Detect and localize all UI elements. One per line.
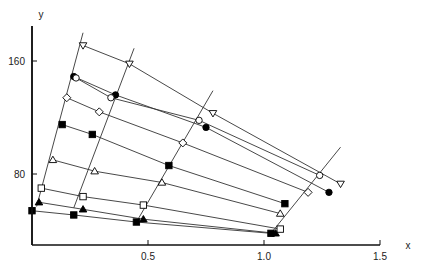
circle-marker-icon [203, 124, 209, 130]
square-marker-icon [71, 212, 77, 218]
diamond-marker-icon [179, 139, 187, 147]
x-tick-label: 0.5 [141, 251, 155, 262]
y-tick-label: 160 [8, 56, 25, 67]
circle-marker-icon [196, 117, 202, 123]
square-marker-icon [38, 185, 44, 191]
diamond-marker-icon [63, 94, 71, 102]
y-axis-label: y [39, 9, 44, 20]
square-marker-icon [268, 230, 274, 236]
series-line [32, 211, 271, 234]
square-marker-icon [277, 226, 283, 232]
circle-marker-icon [316, 172, 322, 178]
iso-line [37, 33, 83, 207]
circle-marker-icon [326, 189, 332, 195]
circle-marker-icon [108, 95, 114, 101]
y-tick-label: 80 [14, 169, 26, 180]
square-marker-icon [80, 193, 86, 199]
down-triangle-marker-icon [79, 43, 87, 49]
x-axis-label: x [406, 240, 411, 251]
chart: 0.51.01.580160xy [0, 0, 423, 264]
plot-area: 0.51.01.580160xy [0, 0, 423, 264]
square-marker-icon [89, 131, 95, 137]
square-marker-icon [133, 219, 139, 225]
diamond-marker-icon [304, 188, 312, 196]
down-triangle-marker-icon [209, 111, 217, 117]
iso-line [136, 91, 213, 222]
up-triangle-marker-icon [35, 199, 43, 205]
square-marker-icon [282, 200, 288, 206]
circle-marker-icon [73, 75, 79, 81]
square-marker-icon [140, 202, 146, 208]
x-tick-label: 1.0 [257, 251, 271, 262]
square-marker-icon [166, 162, 172, 168]
down-triangle-marker-icon [337, 181, 345, 187]
square-marker-icon [59, 121, 65, 127]
diamond-marker-icon [95, 108, 103, 116]
series-line [76, 78, 320, 175]
iso-line [74, 48, 134, 208]
x-tick-label: 1.5 [373, 251, 387, 262]
